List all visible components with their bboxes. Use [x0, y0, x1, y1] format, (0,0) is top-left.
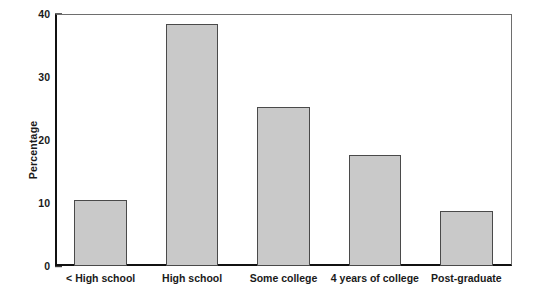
- x-label: Post-graduate: [431, 272, 502, 284]
- y-tick-label: 10: [26, 197, 50, 209]
- y-tick-label: 40: [26, 8, 50, 20]
- x-label: Some college: [250, 272, 318, 284]
- x-label: < High school: [66, 272, 135, 284]
- y-tick-label: 0: [26, 260, 50, 272]
- bar-post-graduate: [440, 211, 493, 266]
- x-label: 4 years of college: [331, 272, 419, 284]
- bar-high-school: [166, 24, 219, 266]
- y-tick-label: 30: [26, 71, 50, 83]
- bar-4-years-of-college: [349, 155, 402, 267]
- bars-layer: [55, 14, 512, 266]
- x-label: High school: [162, 272, 222, 284]
- bar-less-than-high-school: [74, 200, 127, 266]
- bar-some-college: [257, 107, 310, 266]
- y-tick-label: 20: [26, 134, 50, 146]
- bar-chart: Percentage 0 10 20 30 40 < High school H…: [0, 0, 536, 300]
- x-axis-category-labels: < High school High school Some college 4…: [55, 272, 512, 292]
- y-axis-tick-labels: 0 10 20 30 40: [26, 0, 50, 300]
